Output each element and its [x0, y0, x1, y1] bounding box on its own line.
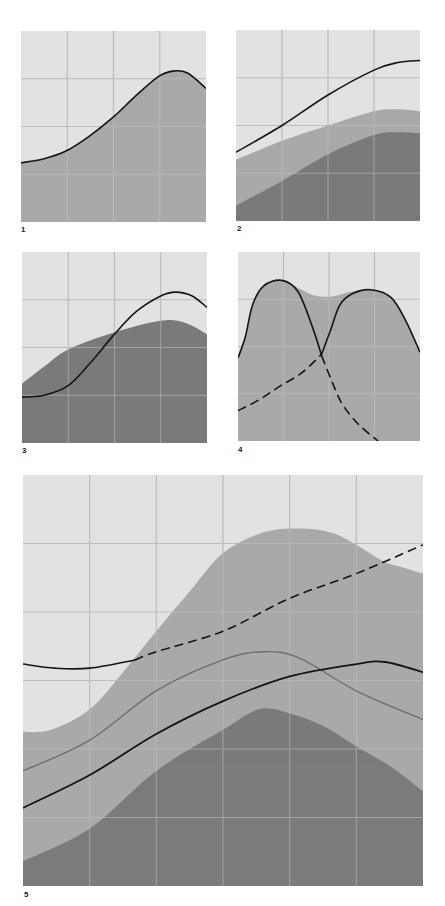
- chart-svg: [236, 30, 420, 221]
- chart-panel-1: [21, 31, 206, 222]
- panel-label-5: 5: [24, 891, 28, 899]
- chart-svg: [21, 31, 206, 222]
- panel-label-4: 4: [238, 446, 242, 454]
- panel-label-3: 3: [22, 447, 26, 455]
- chart-panel-2: [236, 30, 420, 221]
- panel-label-2: 2: [237, 225, 241, 233]
- panel-label-1: 1: [21, 226, 25, 234]
- chart-panel-4: [238, 252, 420, 441]
- chart-panel-5: [23, 475, 423, 886]
- chart-svg: [23, 475, 423, 886]
- chart-svg: [22, 252, 207, 443]
- chart-panel-3: [22, 252, 207, 443]
- chart-svg: [238, 252, 420, 441]
